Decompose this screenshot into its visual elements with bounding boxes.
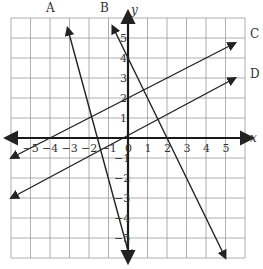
line-label-c: C [250, 27, 259, 41]
y-axis-label: y [130, 3, 138, 17]
x-tick-label: 5 [223, 142, 230, 155]
x-tick-label: −2 [81, 142, 97, 155]
y-tick-label: 2 [120, 92, 127, 105]
x-axis-label: x [250, 131, 257, 145]
x-tick-label: 2 [164, 142, 171, 155]
x-tick-label: −4 [42, 142, 58, 155]
y-tick-label: 4 [120, 52, 127, 65]
line-label-b: B [100, 1, 109, 15]
y-tick-label: −3 [114, 192, 130, 205]
line-label-d: D [250, 67, 260, 81]
y-tick-label: −2 [114, 172, 130, 185]
coordinate-plane: −5−4−3−2−101234554321−1−2−3−4−5 x y A B … [0, 0, 263, 269]
x-tick-label: −5 [23, 142, 39, 155]
y-tick-label: 3 [120, 72, 127, 85]
y-tick-label: 5 [120, 32, 127, 45]
y-tick-label: 1 [120, 112, 127, 125]
y-tick-label: −4 [114, 212, 130, 225]
y-tick-label: −5 [114, 232, 130, 245]
x-tick-label: 4 [203, 142, 210, 155]
y-tick-label: −1 [114, 152, 130, 165]
line-label-a: A [45, 1, 55, 15]
x-tick-label: −3 [62, 142, 78, 155]
x-tick-label: 3 [184, 142, 191, 155]
x-tick-label: 1 [145, 142, 152, 155]
